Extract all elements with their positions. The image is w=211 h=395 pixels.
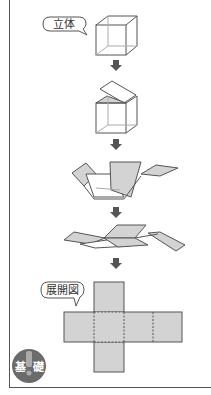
faces-flattening: [64, 225, 185, 251]
basics-badge: 基 礎: [12, 349, 46, 383]
exclamation-icon: [26, 351, 32, 367]
down-arrow-icon: [110, 258, 122, 269]
down-arrow-icon: [110, 139, 122, 150]
solid-label-bubble: 立体: [43, 17, 87, 35]
badge-right-char: 礎: [32, 360, 45, 374]
down-arrow-icon: [110, 207, 122, 218]
badge-left-char: 基: [14, 360, 27, 374]
cube-unfolding-diagram: 立体: [0, 0, 211, 395]
solid-label: 立体: [53, 17, 75, 31]
down-arrow-icon: [110, 60, 122, 71]
net-label: 展開図: [46, 284, 79, 297]
lid-opening-cube: [96, 81, 137, 133]
solid-cube: [96, 16, 137, 55]
faces-unfolding: [72, 162, 178, 199]
net-label-bubble: 展開図: [41, 282, 84, 306]
